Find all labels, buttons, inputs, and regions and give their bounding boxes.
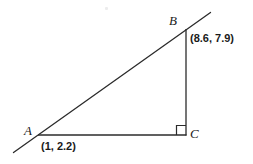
vertex-label-a: A	[24, 124, 32, 137]
vertex-label-b: B	[169, 14, 177, 27]
geometry-figure: A B C (1, 2.2) (8.6, 7.9)	[0, 0, 253, 164]
scan-speck-artifact	[105, 7, 108, 10]
coordinate-label-b: (8.6, 7.9)	[190, 33, 234, 44]
right-angle-marker-icon	[177, 126, 187, 136]
hypotenuse-line-AB	[14, 13, 211, 153]
triangle-diagram-svg	[0, 0, 253, 164]
vertex-label-c: C	[190, 127, 199, 140]
coordinate-label-a: (1, 2.2)	[41, 141, 76, 152]
